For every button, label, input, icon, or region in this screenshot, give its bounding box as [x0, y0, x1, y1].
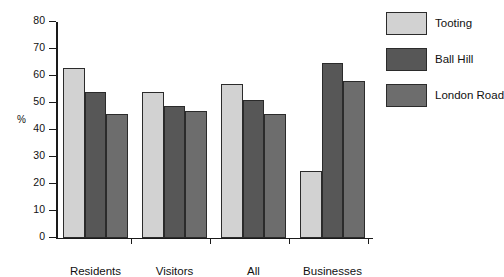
legend-swatch: [386, 48, 427, 71]
legend-label: Tooting: [435, 17, 472, 29]
x-axis-category-label: Visitors: [135, 265, 214, 277]
y-axis-tick: 60: [49, 75, 56, 76]
bar-london-road-visitors[interactable]: [185, 111, 207, 238]
y-axis-tick-label: 40: [23, 122, 45, 134]
y-axis-tick: 30: [49, 156, 56, 157]
plot-area: 01020304050607080ResidentsVisitorsAllBus…: [56, 22, 372, 238]
y-axis-tick: 0: [49, 237, 56, 238]
y-axis-tick-label: 10: [23, 203, 45, 215]
y-axis-tick-label: 0: [23, 230, 45, 242]
y-axis-tick-label: 30: [23, 149, 45, 161]
y-axis-tick-label: 80: [23, 14, 45, 26]
bar-group: [63, 22, 128, 238]
bar-group: [142, 22, 207, 238]
bar-tooting-businesses[interactable]: [300, 171, 322, 239]
legend-label: Ball Hill: [435, 53, 473, 65]
y-axis-tick: 50: [49, 102, 56, 103]
bar-tooting-visitors[interactable]: [142, 92, 164, 238]
x-axis-tick: [131, 238, 133, 244]
y-axis-tick-label: 20: [23, 176, 45, 188]
x-axis-tick: [210, 238, 212, 244]
x-axis-category-label: All: [214, 265, 293, 277]
bar-tooting-all[interactable]: [221, 84, 243, 238]
x-axis-category-label: Residents: [56, 265, 135, 277]
bar-group: [221, 22, 286, 238]
x-axis-tick: [368, 238, 370, 244]
x-axis-category-label: Businesses: [293, 265, 372, 277]
legend: TootingBall HillLondon Road: [386, 12, 498, 120]
legend-swatch: [386, 84, 427, 107]
y-axis-tick-label: 70: [23, 41, 45, 53]
legend-item[interactable]: Tooting: [386, 12, 498, 36]
bar-ball-hill-businesses[interactable]: [322, 63, 344, 239]
bar-ball-hill-residents[interactable]: [85, 92, 107, 238]
y-axis-tick-label: 60: [23, 68, 45, 80]
bar-london-road-businesses[interactable]: [343, 81, 365, 238]
y-axis-tick: 80: [49, 21, 56, 22]
legend-swatch: [386, 12, 427, 35]
bar-tooting-residents[interactable]: [63, 68, 85, 238]
bar-london-road-residents[interactable]: [106, 114, 128, 238]
bar-ball-hill-all[interactable]: [243, 100, 265, 238]
legend-label: London Road: [435, 89, 504, 101]
y-axis-tick-label: 50: [23, 95, 45, 107]
bar-london-road-all[interactable]: [264, 114, 286, 238]
y-axis-tick: 10: [49, 210, 56, 211]
x-axis-tick: [289, 238, 291, 244]
legend-item[interactable]: Ball Hill: [386, 48, 498, 72]
y-axis-tick: 70: [49, 48, 56, 49]
legend-item[interactable]: London Road: [386, 84, 498, 108]
bar-ball-hill-visitors[interactable]: [164, 106, 186, 238]
y-axis-tick: 40: [49, 129, 56, 130]
y-axis-tick: 20: [49, 183, 56, 184]
bar-group: [300, 22, 365, 238]
